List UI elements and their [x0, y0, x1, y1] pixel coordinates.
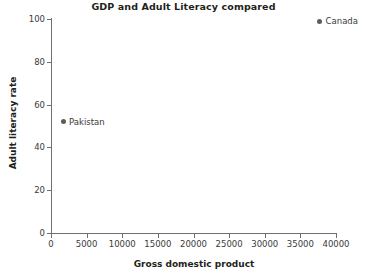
y-tick — [47, 19, 51, 20]
y-tick — [47, 147, 51, 148]
x-tick — [265, 234, 266, 238]
scatter-chart: GDP and Adult Literacy compared 02040608… — [0, 0, 367, 277]
x-axis-title: Gross domestic product — [51, 259, 337, 269]
data-point-label: Canada — [326, 17, 358, 26]
y-axis-title: Adult literacy rate — [8, 63, 18, 183]
x-tick — [122, 234, 123, 238]
y-tick-label: 0 — [5, 229, 45, 238]
chart-title: GDP and Adult Literacy compared — [0, 1, 367, 12]
data-point-label: Pakistan — [69, 118, 105, 127]
y-tick — [47, 190, 51, 191]
y-tick — [47, 105, 51, 106]
x-tick — [51, 234, 52, 238]
data-point — [61, 119, 66, 124]
x-tick — [194, 234, 195, 238]
x-tick — [336, 234, 337, 238]
x-tick — [300, 234, 301, 238]
y-axis-line — [51, 18, 52, 234]
x-tick — [229, 234, 230, 238]
y-tick — [47, 62, 51, 63]
y-tick-label: 100 — [5, 15, 45, 24]
x-tick-label: 40000 — [306, 240, 366, 249]
data-point — [317, 19, 322, 24]
y-tick-label: 20 — [5, 186, 45, 195]
x-tick — [158, 234, 159, 238]
x-tick — [87, 234, 88, 238]
